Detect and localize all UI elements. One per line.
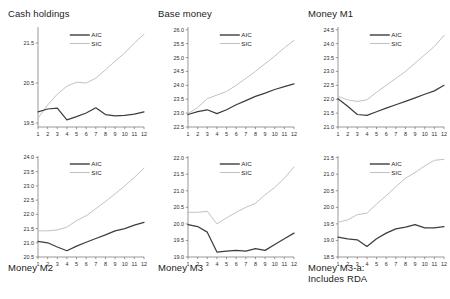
- x-tick-label: 5: [375, 131, 378, 137]
- legend-label-sic: SIC: [391, 169, 402, 176]
- x-tick-label: 1: [337, 131, 340, 137]
- x-tick-label: 6: [235, 131, 238, 137]
- y-tick-label: 26.0: [174, 27, 185, 33]
- y-tick-label: 21.5: [324, 110, 335, 116]
- plot-area: 19.520.521.5123456789101112AICSIC: [0, 0, 150, 149]
- x-tick-label: 10: [272, 261, 278, 267]
- x-tick-label: 3: [56, 131, 59, 137]
- x-tick-label: 3: [56, 261, 59, 267]
- y-tick-label: 22.0: [24, 211, 35, 217]
- y-tick-label: 25.5: [174, 41, 185, 47]
- x-tick-label: 6: [85, 131, 88, 137]
- legend-label-aic: AIC: [391, 31, 402, 38]
- panel-base-money: Base money22.523.023.524.024.525.025.526…: [150, 0, 300, 149]
- x-tick-label: 1: [37, 261, 40, 267]
- panel-money-m1: Money M121.021.522.022.523.023.524.024.5…: [300, 0, 450, 149]
- plot-area: 19.019.520.020.521.021.522.0123456789101…: [150, 150, 300, 299]
- y-tick-label: 23.5: [24, 169, 35, 175]
- x-tick-label: 9: [114, 261, 117, 267]
- x-tick-label: 10: [422, 131, 428, 137]
- plot-wrapper: 19.019.520.020.521.021.522.0123456789101…: [150, 150, 300, 299]
- legend-label-sic: SIC: [91, 169, 102, 176]
- x-tick-label: 7: [394, 261, 397, 267]
- y-tick-label: 19.5: [324, 221, 335, 227]
- x-tick-label: 10: [122, 261, 128, 267]
- x-tick-label: 9: [414, 131, 417, 137]
- x-tick-label: 2: [346, 131, 349, 137]
- x-tick-label: 8: [404, 261, 407, 267]
- x-tick-label: 9: [264, 261, 267, 267]
- series-line-aic: [338, 85, 444, 115]
- x-tick-label: 9: [414, 261, 417, 267]
- x-tick-label: 4: [365, 261, 368, 267]
- multi-panel-figure: Cash holdings19.520.521.5123456789101112…: [0, 0, 450, 299]
- series-line-aic: [188, 225, 294, 252]
- x-tick-label: 9: [114, 131, 117, 137]
- panel-cash-holdings: Cash holdings19.520.521.5123456789101112…: [0, 0, 150, 149]
- series-line-aic: [338, 225, 444, 247]
- y-tick-label: 24.5: [324, 27, 335, 33]
- series-line-aic: [38, 222, 144, 250]
- y-tick-label: 18.5: [324, 254, 335, 260]
- y-tick-label: 23.0: [174, 110, 185, 116]
- x-tick-label: 6: [385, 261, 388, 267]
- x-tick-label: 10: [422, 261, 428, 267]
- y-tick-label: 21.5: [24, 40, 35, 46]
- x-tick-label: 2: [346, 261, 349, 267]
- series-line-aic: [188, 84, 294, 115]
- plot-wrapper: 21.021.522.022.523.023.524.024.512345678…: [300, 0, 450, 149]
- panel-money-m3a: Money M3-a: Includes RDA18.519.019.520.0…: [300, 150, 450, 299]
- panel-money-m2: Money M220.521.021.522.022.523.023.524.0…: [0, 150, 150, 299]
- y-tick-label: 20.0: [174, 221, 185, 227]
- x-tick-label: 12: [291, 261, 297, 267]
- plot-area: 22.523.023.524.024.525.025.526.012345678…: [150, 0, 300, 149]
- series-line-aic: [38, 108, 144, 120]
- y-tick-label: 21.5: [324, 155, 335, 161]
- y-tick-label: 22.0: [324, 96, 335, 102]
- x-tick-label: 11: [132, 261, 138, 267]
- legend-label-sic: SIC: [91, 40, 102, 47]
- x-tick-label: 6: [85, 261, 88, 267]
- y-tick-label: 25.0: [174, 55, 185, 61]
- y-tick-label: 19.5: [24, 120, 35, 126]
- x-tick-label: 7: [244, 131, 247, 137]
- x-tick-label: 1: [337, 261, 340, 267]
- x-tick-label: 6: [385, 131, 388, 137]
- y-tick-label: 21.5: [24, 226, 35, 232]
- x-tick-label: 12: [141, 131, 147, 137]
- x-tick-label: 2: [46, 261, 49, 267]
- y-tick-label: 19.5: [174, 237, 185, 243]
- y-tick-label: 22.5: [24, 197, 35, 203]
- x-tick-label: 11: [132, 131, 138, 137]
- x-tick-label: 1: [187, 131, 190, 137]
- y-tick-label: 21.0: [324, 124, 335, 130]
- plot-wrapper: 19.520.521.5123456789101112AICSIC: [0, 0, 150, 149]
- y-tick-label: 24.0: [324, 41, 335, 47]
- y-tick-label: 22.0: [174, 155, 185, 161]
- series-line-sic: [38, 168, 144, 231]
- legend-label-sic: SIC: [241, 40, 252, 47]
- y-tick-label: 23.5: [324, 55, 335, 61]
- y-tick-label: 20.5: [324, 188, 335, 194]
- x-tick-label: 12: [141, 261, 147, 267]
- x-tick-label: 8: [404, 131, 407, 137]
- x-tick-label: 11: [282, 131, 288, 137]
- x-tick-label: 8: [254, 261, 257, 267]
- y-tick-label: 22.5: [174, 124, 185, 130]
- plot-wrapper: 20.521.021.522.022.523.023.524.012345678…: [0, 150, 150, 299]
- x-tick-label: 4: [65, 261, 68, 267]
- x-tick-label: 9: [264, 131, 267, 137]
- plot-wrapper: 22.523.023.524.024.525.025.526.012345678…: [150, 0, 300, 149]
- x-tick-label: 5: [75, 261, 78, 267]
- y-tick-label: 24.0: [24, 154, 35, 160]
- x-tick-label: 3: [356, 261, 359, 267]
- x-tick-label: 7: [394, 131, 397, 137]
- y-tick-label: 19.0: [174, 254, 185, 260]
- y-tick-label: 23.0: [324, 68, 335, 74]
- x-tick-label: 3: [356, 131, 359, 137]
- x-tick-label: 7: [94, 261, 97, 267]
- plot-area: 21.021.522.022.523.023.524.024.512345678…: [300, 0, 450, 149]
- x-tick-label: 12: [291, 131, 297, 137]
- plot-area: 20.521.021.522.022.523.023.524.012345678…: [0, 150, 150, 299]
- legend-label-aic: AIC: [391, 160, 402, 167]
